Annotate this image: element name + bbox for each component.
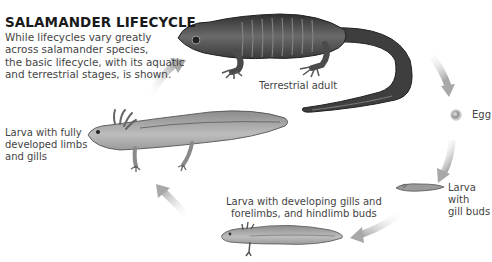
intro-line: across salamander species,: [5, 43, 185, 55]
arrow-to-full-larva-icon: [156, 184, 190, 218]
full-larva-label-line: Larva with fully: [5, 127, 87, 139]
full-larva-label: Larva with fully developed limbs and gil…: [5, 127, 87, 163]
intro-line: and terrestrial stages, is shown.: [5, 68, 185, 80]
developing-larva-label-line: forelimbs, and hindlimb buds: [226, 208, 382, 220]
developing-larva-label-line: Larva with developing gills and: [226, 196, 382, 208]
gill-buds-label-line: Larva with: [448, 182, 492, 206]
intro-line: While lifecycles vary greatly: [5, 31, 185, 43]
intro-line: the basic lifecycle, with its aquatic: [5, 56, 185, 68]
arrow-to-gill-buds-icon: [437, 140, 452, 183]
intro-text: While lifecycles vary greatly across sal…: [5, 31, 185, 80]
page-title: SALAMANDER LIFECYCLE: [5, 14, 196, 30]
developing-larva-illustration: [222, 222, 343, 256]
gill-buds-larva-illustration: [396, 184, 444, 191]
gill-buds-label: Larva with gill buds: [448, 182, 492, 218]
arrow-to-egg-icon: [428, 52, 455, 97]
full-larva-label-line: developed limbs: [5, 139, 87, 151]
terrestrial-adult-illustration: [178, 14, 412, 112]
egg-illustration: [451, 110, 461, 120]
full-larva-illustration: [88, 110, 288, 172]
developing-larva-label: Larva with developing gills and forelimb…: [226, 196, 382, 220]
egg-label: Egg: [472, 109, 491, 121]
gill-buds-label-line: gill buds: [448, 206, 492, 218]
full-larva-label-line: and gills: [5, 151, 87, 163]
terrestrial-adult-label: Terrestrial adult: [259, 80, 337, 92]
